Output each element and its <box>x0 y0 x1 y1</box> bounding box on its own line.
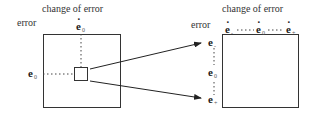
right-top-variable-plus: e+ <box>286 23 295 36</box>
right-side-variable-minus: e- <box>208 36 216 49</box>
right-top-variable-zero: e0 <box>256 23 265 36</box>
lower-zoom-arrow <box>90 81 201 98</box>
right-zoomed-box <box>223 35 299 108</box>
diagram-canvas <box>0 0 312 113</box>
right-side-variable-zero: e0 <box>208 66 217 79</box>
right-top-variable-minus: e- <box>225 23 233 36</box>
left-inner-box <box>75 68 88 81</box>
left-y-axis-label: error <box>17 17 36 28</box>
left-x-axis-label: change of error <box>42 3 103 14</box>
right-side-variable-plus: e+ <box>208 93 217 106</box>
right-y-axis-label: error <box>191 19 210 30</box>
left-side-variable: e0 <box>28 67 37 80</box>
left-outer-box <box>44 35 121 108</box>
right-x-axis-label: change of error <box>222 3 283 14</box>
upper-zoom-arrow <box>90 43 201 69</box>
left-top-variable: e0 <box>76 20 85 33</box>
